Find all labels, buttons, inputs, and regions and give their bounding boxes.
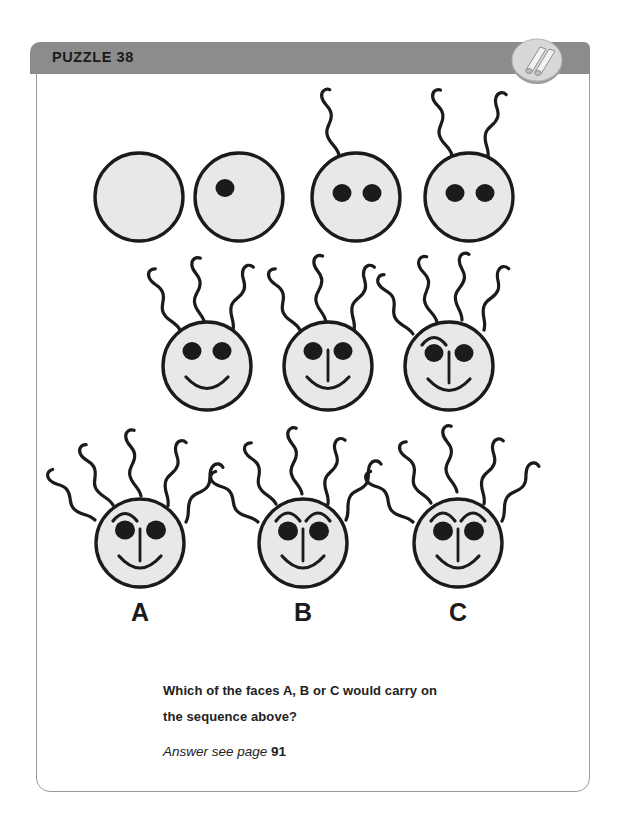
answer-reference: Answer see page 91 <box>163 744 286 759</box>
option-label-a[interactable]: A <box>120 598 160 627</box>
page-title: PUZZLE 38 <box>52 49 134 65</box>
answer-page-number: 91 <box>271 744 286 759</box>
question-line-1: Which of the faces A, B or C would carry… <box>163 678 523 704</box>
rolled-paper-badge-icon <box>508 32 566 90</box>
option-label-b[interactable]: B <box>283 598 323 627</box>
question-line-2: the sequence above? <box>163 704 523 730</box>
answer-reference-text: Answer see page <box>163 744 271 759</box>
puzzle-header-bar: PUZZLE 38 <box>30 42 590 74</box>
option-label-c[interactable]: C <box>438 598 478 627</box>
question-block: Which of the faces A, B or C would carry… <box>163 678 523 730</box>
